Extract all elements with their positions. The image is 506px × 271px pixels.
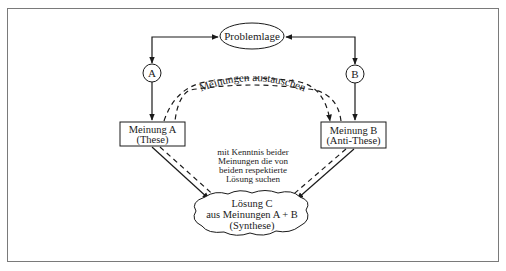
opinion-a-subtitle: (These): [136, 134, 169, 146]
a-marker-node: A: [143, 64, 161, 82]
b-marker-label: B: [351, 68, 358, 80]
solution-title: Lösung C: [231, 198, 272, 209]
b-marker-node: B: [346, 65, 364, 83]
edge-problem-a: [152, 37, 218, 63]
solution-note: (Synthese): [230, 220, 275, 232]
edge-opinion-b-solution: [297, 149, 354, 199]
center-note: mit Kenntnis beider Meinungen die von be…: [217, 147, 289, 184]
exchange-label-text: Meinungen austauschen: [197, 71, 308, 94]
exchange-label: Meinungen austauschen: [197, 71, 308, 94]
problem-node: Problemlage: [220, 23, 284, 49]
problem-label: Problemlage: [224, 30, 280, 42]
opinion-b-subtitle: (Anti-These): [326, 135, 381, 147]
edge-opinion-a-solution-dashed: [160, 147, 218, 199]
opinion-a-node: Meinung A (These): [120, 122, 185, 146]
solution-node: Lösung C aus Meinungen A + B (Synthese): [194, 191, 308, 236]
edge-problem-b: [286, 37, 355, 64]
edge-opinion-a-solution: [152, 147, 209, 199]
center-note-line4: Lösung suchen: [226, 174, 281, 184]
opinion-b-node: Meinung B (Anti-These): [321, 122, 386, 148]
edge-opinion-b-solution-dashed: [288, 149, 346, 199]
a-marker-label: A: [148, 67, 156, 79]
diagram-canvas: Problemlage A B Meinungen austauschen Me…: [0, 0, 506, 271]
solution-subtitle: aus Meinungen A + B: [206, 209, 298, 220]
